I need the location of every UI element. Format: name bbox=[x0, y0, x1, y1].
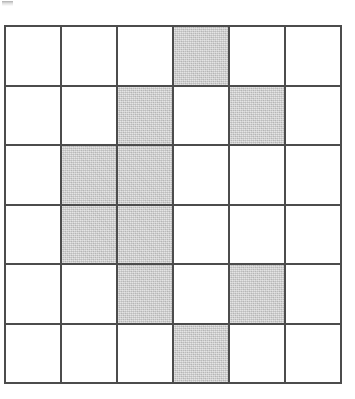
grid-cell-r3c6 bbox=[286, 146, 342, 206]
grid-cell-r3c5 bbox=[230, 146, 286, 206]
grid-cell-r2c4 bbox=[174, 87, 230, 147]
grid-cell-r4c5 bbox=[230, 206, 286, 266]
grid-cell-r5c2 bbox=[62, 265, 118, 325]
grid-cell-r3c3 bbox=[118, 146, 174, 206]
grid-cell-r6c4 bbox=[174, 325, 230, 385]
grid-cell-r1c6 bbox=[286, 27, 342, 87]
grid-cell-r6c5 bbox=[230, 325, 286, 385]
grid-cell-r6c6 bbox=[286, 325, 342, 385]
grid-cell-r4c2 bbox=[62, 206, 118, 266]
grid-cell-r4c1 bbox=[6, 206, 62, 266]
grid-cell-r6c3 bbox=[118, 325, 174, 385]
grid-cell-r5c3 bbox=[118, 265, 174, 325]
grid-cell-r2c5 bbox=[230, 87, 286, 147]
grid-cell-r4c4 bbox=[174, 206, 230, 266]
shaded-grid-figure bbox=[4, 25, 342, 384]
grid-cell-r1c4 bbox=[174, 27, 230, 87]
grid-cell-r6c1 bbox=[6, 325, 62, 385]
grid-cell-r4c6 bbox=[286, 206, 342, 266]
grid-cell-r1c1 bbox=[6, 27, 62, 87]
grid-cell-r5c6 bbox=[286, 265, 342, 325]
grid-cell-r3c1 bbox=[6, 146, 62, 206]
grid-cell-r1c2 bbox=[62, 27, 118, 87]
grid-cell-r5c5 bbox=[230, 265, 286, 325]
grid-cell-r5c1 bbox=[6, 265, 62, 325]
grid-cell-r5c4 bbox=[174, 265, 230, 325]
grid-cell-r2c6 bbox=[286, 87, 342, 147]
grid-cell-r2c1 bbox=[6, 87, 62, 147]
grid-cell-r2c3 bbox=[118, 87, 174, 147]
grid-cell-r6c2 bbox=[62, 325, 118, 385]
grid-cell-r3c2 bbox=[62, 146, 118, 206]
grid-cell-r1c5 bbox=[230, 27, 286, 87]
scan-smudge-artifact bbox=[2, 1, 13, 6]
grid-cell-r2c2 bbox=[62, 87, 118, 147]
grid-cell-r4c3 bbox=[118, 206, 174, 266]
grid-cell-r1c3 bbox=[118, 27, 174, 87]
grid-cell-r3c4 bbox=[174, 146, 230, 206]
